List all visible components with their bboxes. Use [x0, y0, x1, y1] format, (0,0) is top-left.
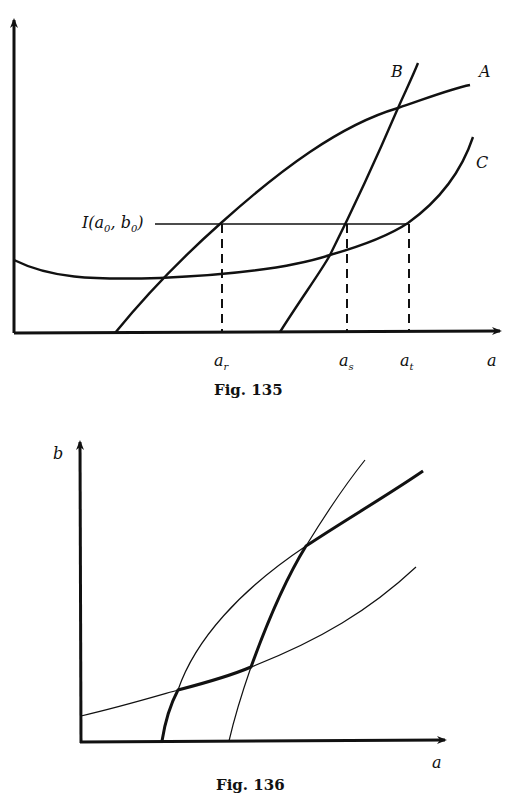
- fig136-x-axis: [80, 740, 445, 742]
- figure-canvas: [0, 0, 511, 806]
- fig135-tick-ar: ar: [214, 353, 228, 372]
- fig135-x-axis: [14, 331, 500, 333]
- fig135-caption: Fig. 135: [214, 383, 283, 398]
- point-label-text: ): [137, 213, 143, 232]
- tick-sub: s: [349, 361, 354, 372]
- fig136-curve-3: [229, 460, 365, 741]
- fig136-plot: [80, 442, 445, 743]
- tick-sub: r: [224, 361, 229, 372]
- tick-sub: t: [410, 361, 414, 372]
- point-label-text: I(a: [82, 213, 104, 232]
- fig135-label-C: C: [476, 155, 488, 171]
- tick-base: a: [400, 351, 410, 370]
- tick-base: a: [214, 351, 224, 370]
- fig135-tick-at: at: [400, 353, 414, 372]
- fig135-plot: [14, 20, 500, 333]
- fig135-label-A: A: [479, 64, 491, 80]
- fig136-caption: Fig. 136: [216, 778, 285, 793]
- fig135-curve-C: [14, 137, 473, 279]
- fig136-curve-1: [162, 471, 423, 741]
- fig135-tick-as: as: [339, 353, 354, 372]
- fig136-y-axis-label: b: [53, 446, 63, 462]
- fig136-curve-2: [81, 567, 416, 716]
- point-label-text: , b: [110, 213, 130, 232]
- fig135-label-B: B: [391, 64, 403, 80]
- fig135-curve-B: [280, 63, 418, 332]
- fig135-point-label: I(a0, b0): [82, 215, 144, 234]
- fig136-x-axis-label: a: [432, 755, 442, 771]
- fig136-envelope: [162, 471, 423, 741]
- fig136-y-axis: [80, 442, 81, 743]
- fig135-x-axis-label: a: [487, 353, 497, 369]
- fig135-curve-A: [115, 85, 470, 333]
- tick-base: a: [339, 351, 349, 370]
